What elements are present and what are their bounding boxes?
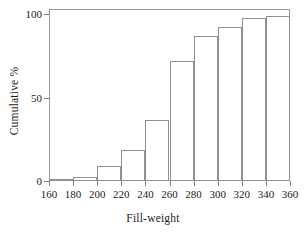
bar [145,120,169,181]
x-tick-label: 220 [113,189,130,200]
x-tick-mark [170,181,171,186]
x-tick-label: 320 [234,189,251,200]
x-tick-mark [49,181,50,186]
x-tick-mark [218,181,219,186]
x-tick-label: 340 [258,189,275,200]
x-tick-mark [266,181,267,186]
x-tick-label: 200 [89,189,106,200]
bar [194,36,218,181]
y-tick-mark [44,14,49,15]
x-tick-label: 360 [282,189,299,200]
cumulative-histogram-figure: 050100 160180200220240260280300320340360… [0,0,306,238]
y-tick-label: 100 [26,9,43,20]
x-axis: 160180200220240260280300320340360 [0,181,306,238]
x-tick-mark [242,181,243,186]
bar [218,27,242,181]
bar [266,16,290,181]
x-tick-label: 260 [161,189,178,200]
y-tick-label: 50 [31,92,42,103]
x-tick-label: 180 [65,189,82,200]
bar [242,18,266,181]
bar-series [49,9,290,181]
x-tick-label: 160 [41,189,58,200]
x-tick-label: 280 [185,189,202,200]
x-tick-mark [194,181,195,186]
bar [97,166,121,181]
x-tick-mark [121,181,122,186]
x-tick-mark [290,181,291,186]
y-tick-mark [44,98,49,99]
x-tick-mark [145,181,146,186]
x-tick-mark [73,181,74,186]
x-axis-title: Fill-weight [0,212,306,224]
x-tick-mark [97,181,98,186]
x-tick-label: 240 [137,189,154,200]
bar [170,61,194,181]
x-tick-label: 300 [209,189,226,200]
bar [121,150,145,181]
y-axis-title: Cumulative % [8,41,20,161]
